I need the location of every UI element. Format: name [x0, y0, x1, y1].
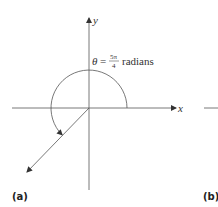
theta-symbol: θ: [92, 55, 98, 67]
fraction-denominator: 4: [112, 62, 116, 70]
diagram-canvas: x y θ = 5π 4 radians: [0, 0, 218, 207]
fraction-numerator: 5π: [110, 53, 118, 61]
equals-sign: =: [100, 55, 106, 67]
panel-label-a: (a): [12, 191, 28, 202]
y-axis-label: y: [92, 14, 98, 26]
angle-label: θ = 5π 4 radians: [92, 53, 154, 70]
terminal-ray: [27, 108, 89, 172]
panel-label-b: (b): [203, 191, 218, 202]
x-axis-label: x: [177, 102, 183, 114]
angle-unit: radians: [122, 55, 154, 67]
